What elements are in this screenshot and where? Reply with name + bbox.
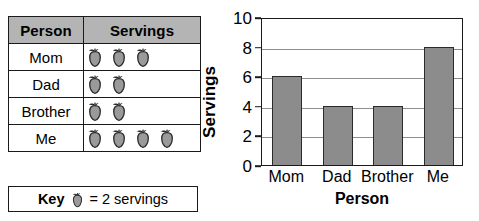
x-axis-title: Person [261,190,463,208]
y-axis-tick-label: 2 [243,128,252,145]
table-row: Me [9,125,201,152]
column-header-person: Person [9,17,84,44]
servings-icons-cell [84,71,201,98]
person-name-cell: Me [9,125,84,152]
bar-me [424,47,454,165]
pictograph-panel: Person Servings MomDadBrotherMe [8,16,198,152]
servings-icons-cell [84,98,201,125]
x-axis-tick-label: Me [427,168,449,186]
bar-dad [323,106,353,165]
bar-brother [373,106,403,165]
bar-chart: Servings 0246810 MomDadBrotherMe Person [214,10,472,215]
apple-icon [132,46,154,68]
x-axis-tick-label: Mom [268,168,304,186]
key-legend-box: Key = 2 servings [8,186,198,212]
apple-icon [132,127,154,149]
y-axis-tick-label: 6 [243,69,252,86]
y-axis-tick-label: 4 [243,98,252,115]
apple-icon-group [84,46,200,68]
apple-icon-group [84,100,200,122]
x-axis-tick-label: Brother [361,168,413,186]
table-row: Mom [9,44,201,71]
y-axis-tick-label: 8 [243,39,252,56]
person-name-cell: Brother [9,98,84,125]
table-body: MomDadBrotherMe [9,44,201,152]
apple-icon [156,127,178,149]
table-header: Person Servings [9,17,201,44]
apple-icon-group [84,73,200,95]
y-axis-tick-label: 0 [243,158,252,175]
person-name-cell: Dad [9,71,84,98]
plot-area [261,18,463,166]
person-name-cell: Mom [9,44,84,71]
table-row: Dad [9,71,201,98]
key-label: Key [38,191,65,207]
table-row: Brother [9,98,201,125]
servings-icons-cell [84,44,201,71]
apple-icon [108,46,130,68]
apple-icon [108,100,130,122]
servings-icons-cell [84,125,201,152]
y-axis-title: Servings [200,66,220,138]
key-equation-text: = 2 servings [90,191,169,207]
servings-pictograph-table: Person Servings MomDadBrotherMe [8,16,201,152]
apple-icon-group [84,127,200,149]
apple-icon [84,100,106,122]
apple-icon [84,73,106,95]
apple-icon [84,127,106,149]
x-axis-tick-labels: MomDadBrotherMe [261,168,463,190]
apple-icon [108,73,130,95]
y-axis-tick-labels: 0246810 [226,18,252,166]
bar-mom [272,76,302,165]
apple-icon [108,127,130,149]
y-axis-tick-label: 10 [233,10,252,27]
column-header-servings: Servings [84,17,201,44]
x-axis-tick-label: Dad [322,168,351,186]
apple-icon [69,191,86,208]
bars-group [262,19,462,165]
apple-icon [84,46,106,68]
table-header-row: Person Servings [9,17,201,44]
